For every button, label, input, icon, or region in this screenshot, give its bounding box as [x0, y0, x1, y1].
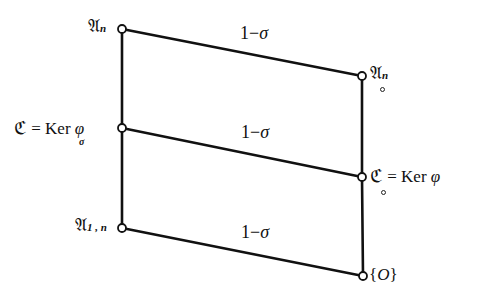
equals-sign: = [31, 119, 41, 138]
ring-accent-icon [380, 87, 385, 92]
minus-sign: − [250, 122, 260, 142]
subscript-n: n [382, 69, 388, 81]
phi-symbol: φ [431, 167, 440, 186]
digit-one: 1 [241, 222, 250, 242]
sigma-symbol: σ [259, 23, 268, 43]
minus-sign: − [250, 222, 260, 242]
digit-one: 1 [241, 122, 250, 142]
fraktur-a-symbol: 𝔄 [75, 214, 87, 235]
subscript-1n: 1 , n [87, 221, 107, 233]
label-right-bot: {O} [369, 266, 398, 283]
close-brace: } [389, 265, 397, 284]
open-brace: { [369, 265, 377, 284]
zero-module-symbol: O [377, 265, 389, 284]
node-right-bot [359, 272, 367, 280]
node-left-mid [118, 124, 126, 132]
sigma-symbol: σ [260, 122, 269, 142]
edge-label-bottom: 1−σ [241, 223, 269, 241]
ker-text: Ker [45, 119, 70, 138]
node-right-mid [358, 173, 366, 181]
node-right-top [358, 72, 366, 80]
fraktur-c-symbol: ℭ [370, 165, 383, 186]
equals-sign: = [387, 167, 397, 186]
digit-one: 1 [240, 23, 249, 43]
node-left-bot [118, 224, 126, 232]
fraktur-a-symbol: 𝔄 [88, 15, 100, 36]
node-left-top [118, 25, 126, 33]
label-right-top: 𝔄n [370, 64, 388, 82]
ker-text: Ker [401, 167, 426, 186]
edge-label-middle: 1−σ [241, 123, 269, 141]
lattice-diagram [0, 0, 480, 304]
ring-accent-icon [381, 190, 386, 195]
label-left-top: 𝔄n [88, 17, 106, 35]
fraktur-a-symbol: 𝔄 [370, 62, 382, 83]
edge-label-top: 1−σ [240, 24, 268, 42]
sigma-symbol: σ [260, 222, 269, 242]
minus-sign: − [249, 23, 259, 43]
ker-subscript-sigma: σ [79, 136, 84, 147]
edge-right-mid-bot [362, 177, 363, 276]
label-right-mid: ℭ = Ker φ [370, 167, 440, 185]
fraktur-c-symbol: ℭ [14, 117, 27, 138]
label-left-bot: 𝔄1 , n [75, 216, 107, 234]
label-left-mid: ℭ = Ker φ [14, 119, 84, 137]
subscript-n: n [100, 22, 106, 34]
